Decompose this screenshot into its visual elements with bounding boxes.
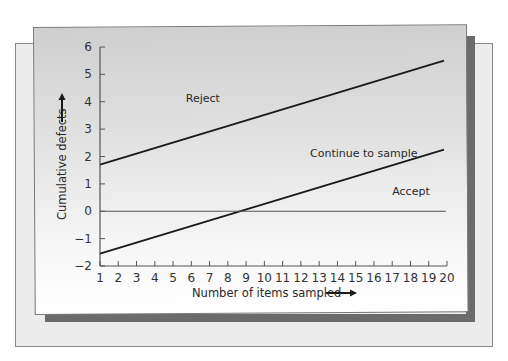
x-tick-label: 4 — [151, 271, 159, 285]
x-tick-label: 13 — [312, 271, 327, 285]
x-tick-label: 8 — [224, 271, 232, 285]
x-tick-label: 1 — [96, 271, 104, 285]
y-tick-label: 3 — [84, 122, 92, 136]
x-tick-label: 11 — [275, 271, 290, 285]
x-tick-label: 15 — [348, 271, 363, 285]
x-tick-label: 18 — [403, 271, 418, 285]
x-tick-label: 7 — [206, 271, 214, 285]
x-tick-label: 16 — [366, 271, 381, 285]
y-tick-label: 4 — [84, 95, 92, 109]
chart-labels: Reject Continue to sample Accept Number … — [55, 92, 430, 300]
y-tick-label: 5 — [84, 67, 92, 81]
x-tick-label: 6 — [187, 271, 195, 285]
x-tick-label: 5 — [169, 271, 177, 285]
accept-line — [100, 150, 444, 254]
x-axis-title: Number of items sampled — [192, 286, 341, 300]
x-tick-label: 12 — [293, 271, 308, 285]
x-tick-label: 20 — [439, 271, 454, 285]
y-tick-label: −1 — [74, 232, 92, 246]
x-tick-label: 3 — [133, 271, 141, 285]
x-tick-label: 14 — [330, 271, 345, 285]
y-tick-label: 6 — [84, 40, 92, 54]
y-tick-label: 1 — [84, 177, 92, 191]
y-axis-title: Cumulative defects — [55, 108, 69, 220]
x-tick-label: 17 — [385, 271, 400, 285]
y-tick-label: 2 — [84, 150, 92, 164]
y-tick-label: −2 — [74, 259, 92, 273]
continue-region-label: Continue to sample — [310, 147, 418, 160]
x-tick-label: 9 — [242, 271, 250, 285]
y-tick-label: 0 — [84, 204, 92, 218]
accept-region-label: Accept — [392, 185, 430, 198]
x-tick-label: 19 — [421, 271, 436, 285]
reject-region-label: Reject — [186, 92, 221, 105]
axes: −2−1012345612345678910111213141516171819… — [74, 40, 454, 285]
x-tick-label: 10 — [257, 271, 272, 285]
chart-plot: −2−1012345612345678910111213141516171819… — [0, 0, 508, 361]
x-tick-label: 2 — [114, 271, 122, 285]
